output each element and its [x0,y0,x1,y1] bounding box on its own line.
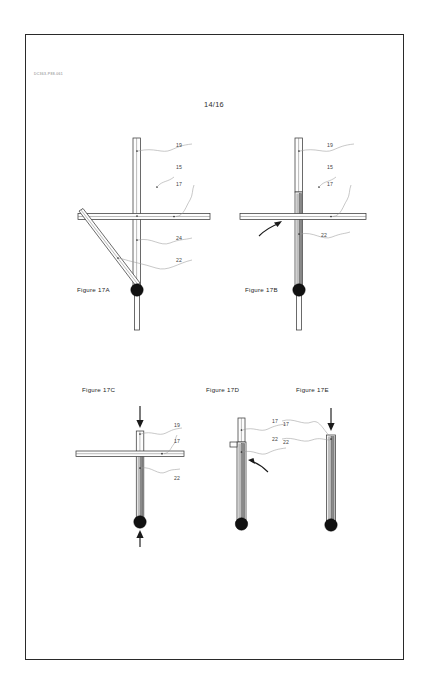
figure-17b-ref-17: 17 [327,181,333,187]
figure-17d-caption: Figure 17D [206,386,239,393]
figure-17a-ref-15: 15 [176,164,182,170]
figure-17e-caption: Figure 17E [296,386,329,393]
figure-17a-ref-19: 19 [176,142,182,148]
page-border [25,34,404,660]
figure-17b-ref-22: 22 [321,232,327,238]
figure-17b-ref-19: 19 [327,142,333,148]
figure-17b-ref-15: 15 [327,164,333,170]
figure-17e-leaders [268,412,338,452]
figure-17c-drawing [98,404,218,549]
drawing-sheet: DC363-P88.061 14/16 Figure 17A [0,0,428,692]
figure-17a-caption: Figure 17A [77,286,110,293]
figure-17a-ref-17: 17 [176,181,182,187]
figure-17b-caption: Figure 17B [245,286,278,293]
figure-17c-ref-22: 22 [174,475,180,481]
figure-17a-ref-22: 22 [176,257,182,263]
figure-17b-drawing [238,130,388,330]
figure-17a-ref-24: 24 [176,235,182,241]
figure-17c-caption: Figure 17C [82,386,115,393]
document-code: DC363-P88.061 [34,72,63,76]
figure-17a-drawing [70,130,220,330]
sheet-number: 14/16 [0,100,428,109]
figure-17c-ref-17: 17 [174,438,180,444]
figure-17c-ref-19: 19 [174,422,180,428]
